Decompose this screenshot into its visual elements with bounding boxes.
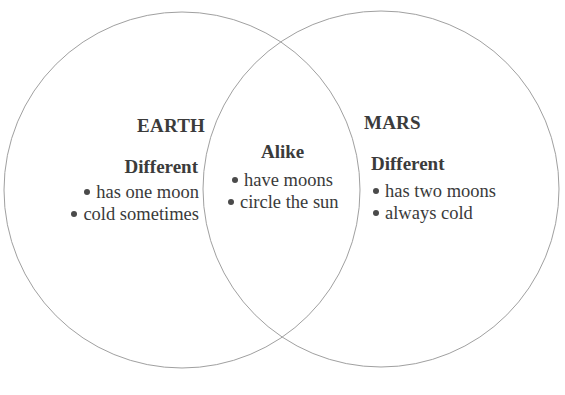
list-item: circle the sun <box>228 191 339 213</box>
earth-title: EARTH <box>137 116 205 135</box>
bullet-icon <box>71 211 77 217</box>
list-item: always cold <box>373 202 496 224</box>
bullet-icon <box>232 177 238 183</box>
mars-title: MARS <box>364 113 421 132</box>
bullet-icon <box>228 199 234 205</box>
list-item: have moons <box>228 169 339 191</box>
list-item: has two moons <box>373 180 496 202</box>
bullet-icon <box>84 189 90 195</box>
earth-different-heading: Different <box>124 157 198 176</box>
mars-differences-list: has two moons always cold <box>373 180 496 224</box>
alike-heading: Alike <box>261 142 304 161</box>
bullet-icon <box>373 188 379 194</box>
mars-different-heading: Different <box>371 154 445 173</box>
list-item: cold sometimes <box>71 203 199 225</box>
earth-differences-list: has one moon cold sometimes <box>71 181 199 225</box>
bullet-icon <box>373 210 379 216</box>
alike-list: have moons circle the sun <box>228 169 339 213</box>
list-item: has one moon <box>71 181 199 203</box>
